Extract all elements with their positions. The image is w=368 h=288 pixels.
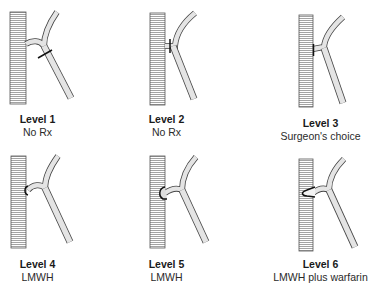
deep-vein (299, 159, 313, 251)
deep-vein (10, 12, 26, 104)
thrombus-mark (160, 187, 167, 199)
treatment-label: No Rx (105, 126, 228, 138)
treatment-label: No Rx (0, 126, 99, 138)
deep-vein (150, 13, 165, 105)
level-label: Level 5 (105, 258, 228, 270)
treatment-label: Surgeon's choice (259, 130, 368, 142)
deep-vein (299, 15, 313, 107)
panel-level-3: Level 3 Surgeon's choice (245, 0, 368, 144)
treatment-label: LMWH (0, 271, 99, 283)
level-label: Level 6 (259, 258, 368, 270)
level-label: Level 2 (105, 113, 228, 125)
level-label: Level 4 (0, 258, 99, 270)
panel-level-6: Level 6 LMWH plus warfarin (245, 144, 368, 288)
level-label: Level 1 (0, 113, 99, 125)
panel-level-2: Level 2 No Rx (123, 0, 246, 144)
panel-level-5: Level 5 LMWH (123, 144, 246, 288)
treatment-label: LMWH (105, 271, 228, 283)
treatment-label: LMWH plus warfarin (259, 271, 368, 283)
level-label: Level 3 (259, 117, 368, 129)
deep-vein (150, 156, 165, 248)
deep-vein (11, 156, 26, 248)
